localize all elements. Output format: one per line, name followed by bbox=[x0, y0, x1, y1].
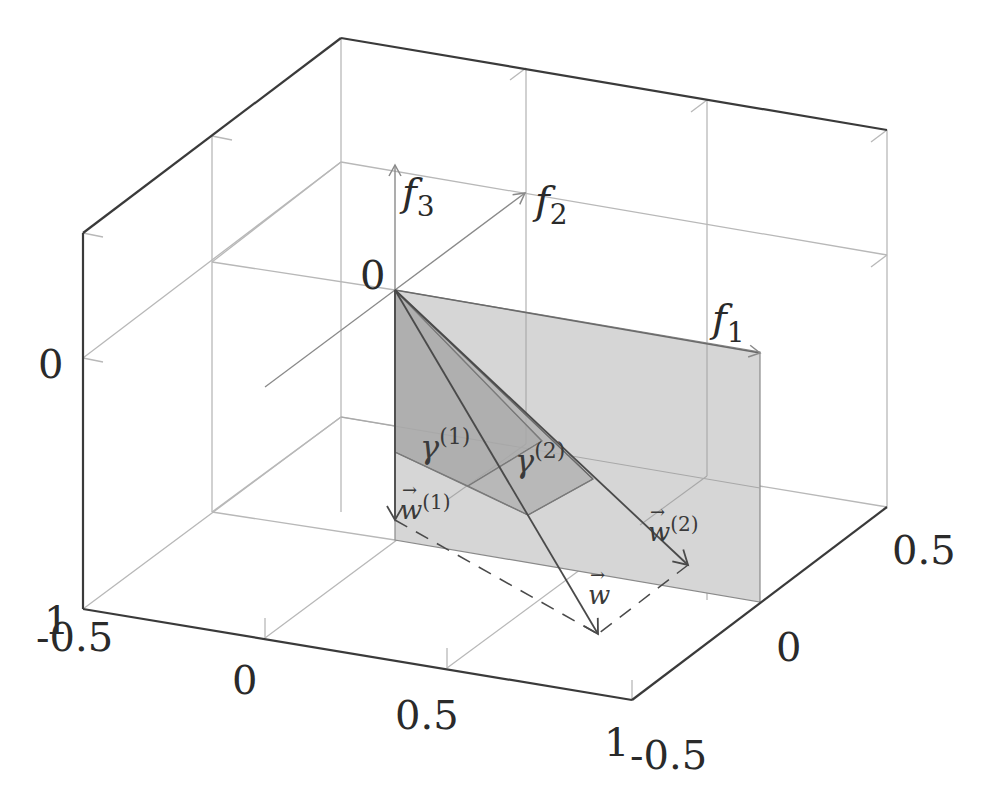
f2-axis-label: f2 bbox=[535, 180, 568, 229]
w2-label: →w(2) bbox=[648, 514, 699, 545]
origin-label: 0 bbox=[360, 255, 385, 295]
x-tick-neg-0-5: -0.5 bbox=[36, 617, 113, 657]
w1-index: (1) bbox=[422, 490, 450, 514]
gamma-1-label: γ(1) bbox=[420, 426, 470, 463]
f3-symbol: f bbox=[402, 169, 417, 215]
z-tick-0: 0 bbox=[38, 344, 63, 384]
x-tick-1: 1 bbox=[604, 722, 629, 762]
gamma-1-symbol: γ bbox=[420, 428, 439, 466]
w2-symbol: →w bbox=[648, 517, 670, 547]
gamma-1-index: (1) bbox=[439, 424, 470, 449]
y-tick-neg-0-5: -0.5 bbox=[630, 735, 707, 775]
x-tick-0: 0 bbox=[232, 660, 257, 700]
3d-diagram bbox=[0, 0, 991, 809]
f2-symbol: f bbox=[535, 177, 550, 223]
f2-subscript: 2 bbox=[550, 198, 568, 231]
w-symbol: →w bbox=[588, 580, 610, 610]
w-label: →w bbox=[588, 582, 610, 608]
f1-symbol: f bbox=[712, 295, 727, 341]
f1-subscript: 1 bbox=[727, 316, 745, 349]
gamma-2-index: (2) bbox=[534, 438, 565, 463]
f2-axis-negative bbox=[265, 290, 395, 387]
f3-subscript: 3 bbox=[417, 190, 435, 223]
x-tick-0-5: 0.5 bbox=[395, 695, 459, 735]
w2-index: (2) bbox=[670, 512, 698, 536]
w1-symbol: →w bbox=[400, 495, 422, 525]
f3-axis-label: f3 bbox=[402, 172, 435, 221]
gamma-2-symbol: γ bbox=[515, 442, 534, 480]
y-tick-0-5: 0.5 bbox=[892, 530, 956, 570]
y-tick-0: 0 bbox=[776, 627, 801, 667]
gamma-2-label: γ(2) bbox=[515, 440, 565, 477]
f1-axis-label: f1 bbox=[712, 298, 745, 347]
w1-label: →w(1) bbox=[400, 492, 451, 523]
